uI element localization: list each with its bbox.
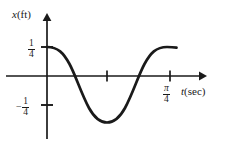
fraction-one-fourth-negative: 14 (22, 97, 29, 118)
fraction-one-fourth: 14 (28, 39, 35, 60)
fraction-denominator: 4 (163, 94, 170, 105)
displacement-vs-time-graph: x(ft) t(sec) 14 −14 π4 (0, 0, 225, 145)
minus-sign: − (16, 102, 22, 112)
fraction-numerator: π (163, 84, 170, 94)
fraction-numerator: 1 (28, 39, 35, 49)
fraction-denominator: 4 (28, 49, 35, 60)
y-axis-title: x(ft) (12, 9, 31, 20)
fraction-numerator: 1 (22, 97, 29, 107)
y-tick-label-negative: −14 (16, 97, 29, 118)
x-axis-unit: (sec) (184, 85, 205, 97)
x-tick-label-pi-over-four: π4 (163, 84, 170, 105)
y-axis-unit: (ft) (17, 8, 31, 20)
x-axis-title: t(sec) (181, 86, 205, 97)
fraction-denominator: 4 (22, 107, 29, 118)
fraction-pi-over-four: π4 (163, 84, 170, 105)
y-tick-label-positive: 14 (28, 39, 35, 60)
cosine-curve (47, 47, 177, 123)
plot-canvas (0, 0, 225, 145)
